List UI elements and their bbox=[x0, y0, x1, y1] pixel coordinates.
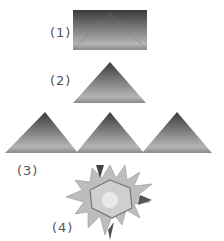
step-label-4: (4) bbox=[52, 220, 73, 235]
step-3-triangles bbox=[5, 112, 212, 153]
step-label-1: (1) bbox=[50, 25, 71, 40]
step-4-star bbox=[66, 165, 152, 240]
step-label-2: (2) bbox=[50, 73, 71, 88]
diagram bbox=[0, 0, 224, 241]
step-2-triangle bbox=[73, 62, 146, 103]
step-label-3: (3) bbox=[17, 163, 38, 178]
step-1-rectangle bbox=[73, 10, 147, 50]
